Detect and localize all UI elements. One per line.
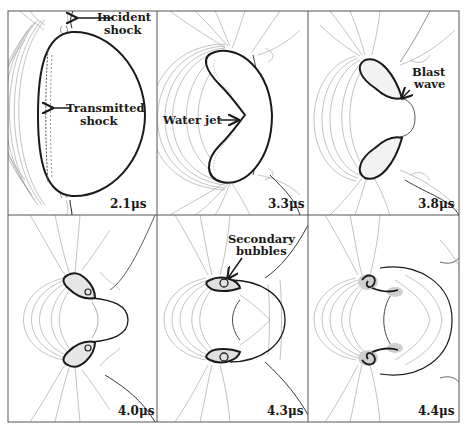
bubble-lobe-upper bbox=[360, 59, 402, 98]
shock-bubble-figure: Incident shock Transmitted shock 2.1μs bbox=[0, 0, 467, 432]
panel-4-3us: Secondary bubbles 4.3μs bbox=[164, 215, 308, 422]
label-water-jet: Water jet bbox=[162, 113, 223, 127]
label-secondary-bubbles-line2: bubbles bbox=[236, 244, 287, 258]
timestamp-label: 3.8μs bbox=[418, 197, 455, 211]
timestamp-label: 4.3μs bbox=[267, 404, 304, 418]
timestamp-label: 4.4μs bbox=[418, 404, 455, 418]
panel-4-4us: 4.4μs bbox=[314, 215, 459, 422]
bubble-lobe-lower bbox=[360, 137, 402, 178]
label-incident-shock-line2: shock bbox=[104, 23, 143, 37]
label-blast-wave-line2: wave bbox=[413, 77, 445, 91]
blast-wave bbox=[230, 280, 285, 362]
timestamp-label: 4.0μs bbox=[118, 404, 155, 418]
blast-wave bbox=[400, 98, 415, 137]
panel-3-3us: Water jet 3.3μs bbox=[150, 11, 305, 215]
timestamp-label: 3.3μs bbox=[268, 197, 305, 211]
blast-wave bbox=[92, 298, 128, 342]
timestamp-label: 2.1μs bbox=[110, 197, 147, 211]
panel-2-1us: Incident shock Transmitted shock 2.1μs bbox=[0, 10, 152, 215]
label-transmitted-shock-line2: shock bbox=[80, 114, 119, 128]
label-transmitted-shock-line1: Transmitted bbox=[66, 101, 145, 115]
panel-3-8us: Blast wave 3.8μs bbox=[314, 11, 459, 215]
panel-4-0us: 4.0μs bbox=[24, 215, 156, 422]
label-incident-shock-line1: Incident bbox=[97, 10, 152, 24]
